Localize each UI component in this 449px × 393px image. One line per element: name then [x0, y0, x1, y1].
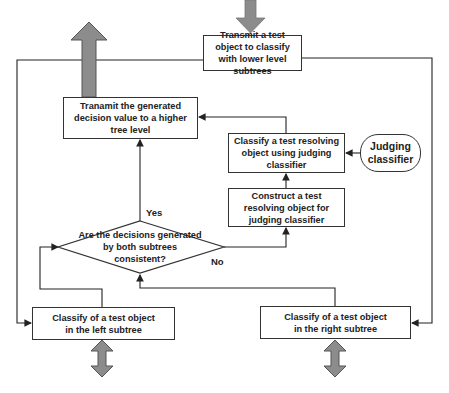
right-double-arrow-icon	[324, 340, 346, 377]
transmit-up-text: Tranamit the generated decision value to…	[74, 100, 187, 136]
yes-label: Yes	[146, 207, 162, 218]
judging-classifier-text: Judging classifier	[367, 140, 414, 166]
judging-classifier-node: Judging classifier	[360, 134, 421, 172]
construct-resolving-box: Construct a test resolving object for ju…	[228, 188, 345, 227]
edge-no	[224, 228, 286, 247]
classify-right-text: Classify of a test object in the right s…	[279, 311, 392, 335]
classify-right-box: Classify of a test object in the right s…	[260, 306, 411, 339]
classify-resolving-text: Classify a test resolving object using j…	[232, 135, 341, 171]
edge-classify-to-transmit-up	[199, 117, 286, 133]
construct-resolving-text: Construct a test resolving object for ju…	[232, 190, 341, 226]
no-label: No	[211, 256, 224, 267]
classify-resolving-box: Classify a test resolving object using j…	[228, 133, 345, 173]
edge-right-subtree-to-decision	[140, 275, 335, 306]
decision-text: Are the decisions generated by both subt…	[78, 229, 202, 265]
transmit-down-text: Transmit a test object to classify with …	[207, 29, 298, 77]
classify-left-box: Classify of a test object in the left su…	[32, 307, 175, 340]
transmit-up-box: Tranamit the generated decision value to…	[63, 97, 198, 139]
classify-left-text: Classify of a test object in the left su…	[47, 312, 160, 336]
transmit-down-box: Transmit a test object to classify with …	[203, 35, 302, 71]
left-double-arrow-icon	[91, 340, 113, 377]
